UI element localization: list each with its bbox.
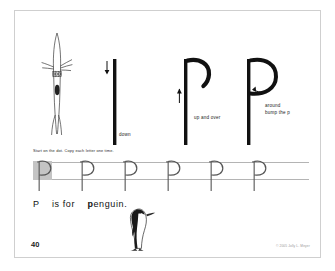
practice-tracing-row[interactable] (15, 157, 321, 195)
practice-letter-P[interactable] (78, 157, 104, 193)
sentence-prefix-letter: P (33, 199, 39, 209)
stroke-caption-around-bump: around bump the p (265, 103, 290, 116)
caption-bump-line2: bump the p (265, 110, 290, 115)
copyright-notice: © 2005 Jolly L. Meyer (276, 244, 310, 248)
standing-penguin-illustration (123, 207, 163, 255)
sentence-row: P is for penguin. (33, 199, 309, 221)
diving-penguin-illustration (41, 29, 75, 137)
demo-letter-stroke-3 (233, 41, 295, 146)
practice-letter-P[interactable] (121, 157, 147, 193)
page-number: 40 (31, 240, 39, 249)
demo-letter-stroke-1 (99, 41, 161, 146)
sentence-middle-words: is for (52, 199, 75, 209)
caption-around-line1: around (265, 103, 281, 108)
practice-letter-P[interactable] (250, 157, 276, 193)
letter-demonstration-section: down up and over around bump the p (15, 11, 321, 146)
instruction-text: Start on the dot. Copy each letter one t… (33, 148, 114, 153)
sentence-text: P is for penguin. (33, 199, 127, 209)
practice-letter-P[interactable] (164, 157, 190, 193)
practice-letter-P[interactable] (35, 157, 61, 193)
demo-letter-stroke-2 (170, 41, 232, 146)
practice-letter-P[interactable] (207, 157, 233, 193)
stroke-caption-down: down (119, 132, 131, 139)
stroke-caption-up-and-over: up and over (194, 115, 220, 122)
worksheet-page: down up and over around bump the p Start… (14, 10, 321, 258)
